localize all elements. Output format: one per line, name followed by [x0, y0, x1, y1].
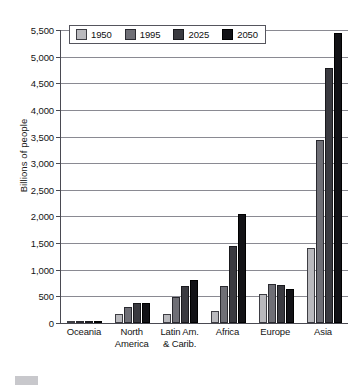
y-axis-tick — [56, 323, 61, 324]
y-axis-tick-label: 500 — [38, 291, 54, 302]
footer-swatch-artifact — [15, 376, 38, 385]
y-axis-tick-label: 3,000 — [31, 158, 54, 169]
x-axis-label: Asia — [299, 326, 347, 349]
bar — [133, 303, 141, 323]
bar-group — [109, 30, 157, 323]
bar — [259, 294, 267, 323]
chart-legend: 1950199520252050 — [69, 25, 266, 44]
y-axis-tick-label: 2,000 — [31, 211, 54, 222]
x-axis-label-line: & Carib. — [156, 338, 204, 350]
x-axis-label-line: Oceania — [60, 326, 108, 338]
bar-group — [157, 30, 205, 323]
bar-group — [61, 30, 109, 323]
x-axis-label: Latin Am.& Carib. — [156, 326, 204, 349]
bar — [94, 321, 102, 323]
bar — [307, 248, 315, 323]
y-axis-tick-label: 2,500 — [31, 184, 54, 195]
legend-item[interactable]: 1995 — [125, 29, 161, 40]
plot-area: 05001,0001,5002,0002,5003,0003,5004,0004… — [60, 30, 348, 324]
x-axis-label-line: America — [108, 338, 156, 350]
legend-swatch-icon — [173, 29, 184, 40]
bar — [316, 140, 324, 323]
y-axis-title: Billions of people — [18, 86, 29, 226]
bar — [238, 214, 246, 323]
bar — [142, 303, 150, 323]
legend-item[interactable]: 1950 — [76, 29, 112, 40]
y-axis-tick-label: 0 — [49, 318, 54, 329]
bar — [211, 311, 219, 323]
x-axis-label-line: Asia — [299, 326, 347, 338]
legend-label: 2025 — [188, 29, 209, 40]
x-axis-label-line: Latin Am. — [156, 326, 204, 338]
bar — [220, 286, 228, 323]
y-axis-tick-label: 4,500 — [31, 78, 54, 89]
bar — [163, 314, 171, 323]
bar — [67, 321, 75, 323]
legend-label: 1995 — [140, 29, 161, 40]
bar — [334, 33, 342, 323]
legend-item[interactable]: 2050 — [222, 29, 258, 40]
legend-label: 1950 — [91, 29, 112, 40]
bar — [277, 285, 285, 323]
bar — [85, 321, 93, 323]
bar-group — [252, 30, 300, 323]
bar — [76, 321, 84, 323]
x-axis-label: NorthAmerica — [108, 326, 156, 349]
bar — [124, 307, 132, 323]
bar — [181, 286, 189, 323]
x-axis-category-labels: OceaniaNorthAmericaLatin Am.& Carib.Afri… — [60, 326, 347, 349]
y-axis-tick-label: 5,500 — [31, 25, 54, 36]
y-axis-tick-label: 3,500 — [31, 131, 54, 142]
bar — [172, 297, 180, 323]
legend-swatch-icon — [125, 29, 136, 40]
x-axis-label-line: North — [108, 326, 156, 338]
x-axis-label-line: Africa — [203, 326, 251, 338]
bar-group — [204, 30, 252, 323]
x-axis-label-line: Europe — [251, 326, 299, 338]
bar — [286, 289, 294, 323]
legend-label: 2050 — [237, 29, 258, 40]
x-axis-label: Africa — [203, 326, 251, 349]
y-axis-tick-label: 5,000 — [31, 51, 54, 62]
y-axis-tick-label: 1,000 — [31, 264, 54, 275]
bar-groups — [61, 30, 348, 323]
bar — [268, 284, 276, 323]
bar — [325, 68, 333, 323]
bar-group — [300, 30, 348, 323]
y-axis-tick-label: 4,000 — [31, 104, 54, 115]
bar — [190, 280, 198, 323]
legend-swatch-icon — [222, 29, 233, 40]
x-axis-label: Europe — [251, 326, 299, 349]
population-bar-chart: Billions of people 05001,0001,5002,0002,… — [0, 0, 354, 392]
legend-item[interactable]: 2025 — [173, 29, 209, 40]
y-axis-tick-label: 1,500 — [31, 238, 54, 249]
bar — [229, 246, 237, 323]
bar — [115, 314, 123, 323]
x-axis-label: Oceania — [60, 326, 108, 349]
legend-swatch-icon — [76, 29, 87, 40]
